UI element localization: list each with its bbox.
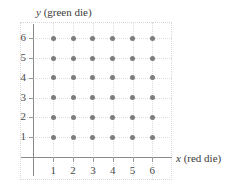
data-point [150, 36, 155, 41]
data-point [71, 95, 76, 100]
data-point [51, 95, 56, 100]
x-axis-tick [53, 157, 54, 162]
y-axis-tick [29, 78, 34, 79]
data-point [110, 56, 115, 61]
y-axis-tick-label: 4 [12, 72, 26, 83]
x-axis-tick-label: 2 [66, 165, 80, 176]
x-axis-tick [93, 157, 94, 162]
data-point [71, 135, 76, 140]
x-axis-title: x (red die) [176, 152, 221, 164]
y-axis-tick [29, 117, 34, 118]
data-point [150, 95, 155, 100]
data-point [51, 56, 56, 61]
x-axis-tick [73, 157, 74, 162]
data-point [150, 115, 155, 120]
data-point [130, 115, 135, 120]
x-axis-tick-label: 1 [46, 165, 60, 176]
y-axis-title-text: (green die) [41, 6, 92, 18]
y-axis-tick [29, 38, 34, 39]
x-axis-line [21, 157, 172, 158]
x-axis-tick [133, 157, 134, 162]
y-axis-tick [29, 58, 34, 59]
data-point [51, 115, 56, 120]
data-point [90, 56, 95, 61]
y-axis-tick-label: 6 [12, 32, 26, 43]
y-axis-tick-label: 5 [12, 52, 26, 63]
data-point [51, 36, 56, 41]
data-point [71, 36, 76, 41]
x-axis-tick-label: 5 [126, 165, 140, 176]
x-axis-tick [152, 157, 153, 162]
y-axis-tick-label: 3 [12, 92, 26, 103]
y-axis-tick-label: 1 [12, 131, 26, 142]
data-point [130, 56, 135, 61]
data-point [51, 135, 56, 140]
data-point [71, 75, 76, 80]
x-axis-title-text: (red die) [181, 152, 221, 164]
data-point [150, 56, 155, 61]
x-axis-tick-label: 4 [106, 165, 120, 176]
data-point [130, 36, 135, 41]
dice-sample-space-scatter-plot: 123456123456 y (green die) x (red die) [0, 0, 233, 192]
x-axis-tick-label: 3 [86, 165, 100, 176]
y-axis-tick-label: 2 [12, 111, 26, 122]
data-point [71, 56, 76, 61]
x-axis-tick-label: 6 [145, 165, 159, 176]
data-point [130, 135, 135, 140]
y-axis-line [33, 24, 34, 176]
x-axis-tick [113, 157, 114, 162]
data-point [110, 36, 115, 41]
y-axis-tick [29, 137, 34, 138]
data-point [110, 135, 115, 140]
y-axis-tick [29, 98, 34, 99]
data-point [71, 115, 76, 120]
data-point [150, 135, 155, 140]
y-axis-title: y (green die) [36, 6, 92, 18]
